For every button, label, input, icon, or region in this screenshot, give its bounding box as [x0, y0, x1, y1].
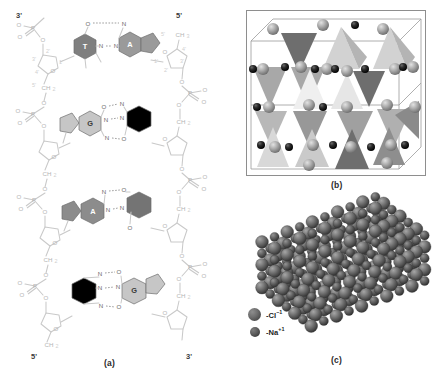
svg-text:2: 2 — [54, 172, 57, 178]
svg-text:2: 2 — [188, 294, 191, 300]
chloride-ion-icon — [248, 308, 261, 321]
left-sugar-4: O CH 2 — [41, 302, 61, 349]
sodium-ion-sphere — [319, 316, 328, 325]
svg-text:N: N — [98, 270, 102, 277]
svg-text:O: O — [180, 165, 185, 172]
svg-text:N: N — [105, 134, 109, 141]
svg-text:O: O — [163, 135, 168, 142]
svg-text:O: O — [44, 294, 49, 301]
hbond-2-3 — [112, 138, 120, 139]
svg-text:N: N — [116, 283, 120, 290]
svg-text:O: O — [203, 86, 208, 93]
svg-text:O: O — [117, 268, 122, 275]
svg-text:P: P — [31, 110, 35, 117]
sodium-charge: +1 — [278, 326, 284, 332]
sodium-ion-sphere — [283, 262, 292, 271]
chloride-ion-sphere — [293, 232, 306, 245]
svg-text:2: 2 — [53, 86, 56, 92]
svg-text:CH: CH — [176, 31, 185, 38]
chloride-ion-sphere — [355, 300, 368, 313]
unit-cell-box — [246, 10, 426, 176]
dna-end-label-top-left: 3' — [16, 11, 22, 20]
svg-text:P: P — [32, 196, 36, 203]
svg-text:CH: CH — [43, 170, 52, 177]
sodium-ion-sphere — [333, 242, 342, 251]
base-pair-3: A O N O N N — [60, 186, 164, 235]
base-label-G: G — [87, 119, 93, 128]
chloride-charge: −1 — [276, 309, 282, 315]
chloride-ion-sphere — [319, 222, 332, 235]
right-backbone: 5' CH 3 O 4' 3' 2' 1' O — [154, 31, 208, 340]
sodium-ion-icon — [250, 327, 260, 337]
svg-text:O: O — [102, 103, 107, 110]
svg-text:O: O — [203, 260, 208, 267]
svg-text:O: O — [51, 67, 56, 74]
svg-text:O: O — [180, 78, 185, 85]
panel-b-caption: (b) — [331, 180, 342, 190]
chloride-ion-sphere — [319, 245, 332, 258]
left-phosphate-1: P O O O — [17, 18, 46, 43]
svg-text:O: O — [42, 99, 47, 106]
tetrahedra-structure — [247, 11, 425, 175]
panel-b-crystal-unit-cell: (b) — [236, 4, 438, 200]
hbond-3-2 — [113, 208, 118, 209]
sodium-ion-sphere — [395, 286, 404, 295]
svg-text:O: O — [17, 21, 22, 28]
chloride-ion-sphere — [268, 265, 281, 278]
chloride-ion-sphere — [330, 310, 343, 323]
sodium-ion-sphere — [270, 255, 279, 264]
svg-text:O: O — [43, 185, 48, 192]
hbond-4-3 — [106, 306, 115, 307]
svg-text:O: O — [17, 193, 22, 200]
base-label-G2: G — [131, 286, 137, 295]
sodium-ion-sphere — [358, 209, 367, 218]
sodium-ion-sphere — [358, 232, 367, 241]
base-A-ring5 — [141, 33, 160, 53]
svg-text:2: 2 — [188, 207, 191, 213]
nacl-legend: -Cl−1 -Na+1 — [248, 306, 284, 340]
svg-text:3': 3' — [32, 56, 36, 62]
svg-text:N: N — [106, 206, 110, 213]
svg-text:CH: CH — [42, 84, 51, 91]
svg-text:O: O — [18, 279, 23, 286]
legend-label-sodium: -Na+1 — [266, 326, 284, 337]
base-A2-ring5 — [62, 201, 81, 221]
svg-text:P: P — [188, 263, 192, 270]
right-sugar-1: 5' CH 3 O 4' 3' 2' 1' O — [154, 31, 190, 85]
sodium-ion-sphere — [320, 235, 329, 244]
legend-row-chloride: -Cl−1 — [248, 306, 284, 323]
sodium-ion-sphere — [295, 245, 304, 254]
svg-text:CH: CH — [177, 292, 186, 299]
legend-label-chloride: -Cl−1 — [266, 309, 282, 320]
svg-text:N: N — [102, 188, 106, 195]
svg-text:O: O — [177, 101, 182, 108]
svg-text:N: N — [104, 116, 108, 123]
svg-text:O: O — [117, 303, 122, 310]
sodium-ion-sphere — [308, 252, 317, 261]
svg-text:CH: CH — [44, 256, 53, 263]
chloride-ion-sphere — [305, 320, 318, 333]
svg-text:O: O — [18, 33, 23, 40]
svg-text:O: O — [203, 173, 208, 180]
panel-c-caption: (c) — [331, 355, 342, 365]
right-sugar-3: CH 2 O O — [163, 196, 191, 259]
svg-text:O: O — [177, 275, 182, 282]
left-phosphate-2: P O O O — [16, 107, 47, 129]
svg-text:CH: CH — [177, 118, 186, 125]
legend-row-sodium: -Na+1 — [248, 323, 284, 340]
right-sugar-2: CH 2 O O — [163, 109, 191, 172]
svg-text:O: O — [202, 98, 207, 105]
svg-text:O: O — [20, 291, 25, 298]
panel-a-dna-base-pairing: 3' 5' 5' 3' P O O O — [0, 0, 222, 381]
svg-text:N: N — [120, 114, 124, 121]
panel-c-nacl-lattice: -Cl−1 -Na+1 (c) — [236, 198, 438, 381]
svg-text:N: N — [99, 42, 103, 49]
chloride-ion-sphere — [293, 255, 306, 268]
left-sugar-2: O CH 2 O — [39, 130, 59, 192]
svg-text:O: O — [128, 224, 133, 231]
dna-end-label-bottom-right: 3' — [186, 352, 192, 361]
chloride-ion-sphere — [306, 238, 319, 251]
base-pair-1: T A O N N N — [60, 20, 163, 68]
svg-text:1': 1' — [59, 59, 63, 65]
svg-text:5': 5' — [161, 31, 165, 37]
